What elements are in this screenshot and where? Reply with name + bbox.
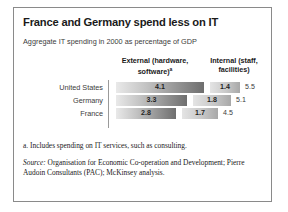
bar-value-internal-france: 1.7 <box>182 109 218 117</box>
bar-value-external-germany: 3.3 <box>116 96 187 104</box>
bar-chart-plot: United States 4.1 1.4 5.5 Germany 3.3 1.… <box>23 80 266 130</box>
column-header-external-line2: software) <box>138 68 170 77</box>
table-row: France 2.8 1.7 4.5 <box>23 108 266 120</box>
column-header-internal: Internal (staff, facilities) <box>202 56 266 75</box>
total-value-france: 4.5 <box>223 109 245 117</box>
source-label: Source: <box>23 158 46 167</box>
row-label-germany: Germany <box>23 96 103 105</box>
bar-value-external-france: 2.8 <box>116 109 176 117</box>
column-header-external-line1: External (hardware, <box>122 56 189 65</box>
row-label-united-states: United States <box>23 83 103 92</box>
column-header-internal-line1: Internal (staff, <box>210 56 258 65</box>
bar-value-internal-germany: 1.8 <box>193 96 231 104</box>
bar-value-internal-united-states: 1.4 <box>210 83 240 91</box>
column-header-internal-line2: facilities) <box>218 65 249 74</box>
notes-section: a. Includes spending on IT services, suc… <box>23 141 261 178</box>
chart-title: France and Germany spend less on IT <box>23 16 218 28</box>
table-row: Germany 3.3 1.8 5.1 <box>23 95 266 107</box>
table-row: United States 4.1 1.4 5.5 <box>23 82 266 94</box>
footnote-marker-icon: a <box>170 66 173 72</box>
total-value-germany: 5.1 <box>236 96 258 104</box>
column-headers: External (hardware, software)a Internal … <box>110 56 266 78</box>
bar-value-external-united-states: 4.1 <box>116 83 204 91</box>
chart-subtitle: Aggregate IT spending in 2000 as percent… <box>23 37 197 46</box>
footnote-text: a. Includes spending on IT services, suc… <box>23 141 261 151</box>
row-label-france: France <box>23 109 103 118</box>
source-body: Organisation for Economic Co-operation a… <box>23 158 244 177</box>
total-value-united-states: 5.5 <box>245 83 267 91</box>
column-header-external: External (hardware, software)a <box>110 56 200 77</box>
exhibit-panel: France and Germany spend less on IT Aggr… <box>13 7 272 202</box>
source-text: Source: Organisation for Economic Co-ope… <box>23 158 261 178</box>
